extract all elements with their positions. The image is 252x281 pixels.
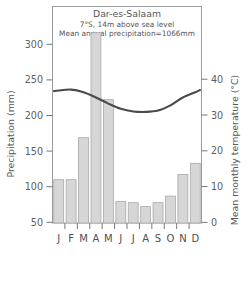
month-label-s-8: S	[155, 233, 161, 244]
precipitation-bar	[66, 180, 76, 223]
precipitation-bar	[54, 180, 64, 223]
chart-subtitle-precipitation: Mean annual precipitation=1066mm	[59, 29, 195, 38]
right-axis-title: Mean monthly temperature (°C)	[229, 75, 240, 226]
precipitation-bar	[190, 163, 200, 223]
month-label-a-3: A	[93, 233, 100, 244]
right-tick-0: 0	[211, 217, 217, 228]
right-tick-10: 10	[211, 181, 223, 192]
month-label-o-9: O	[167, 233, 175, 244]
right-tick-30: 30	[211, 110, 223, 121]
month-label-m-2: M	[79, 233, 88, 244]
right-tick-20: 20	[211, 145, 223, 156]
month-label-a-7: A	[142, 233, 149, 244]
month-label-j-0: J	[56, 233, 60, 244]
precipitation-bar	[141, 207, 151, 223]
precipitation-bar	[103, 100, 113, 223]
left-tick-300: 300	[25, 39, 43, 50]
precipitation-bar	[153, 203, 163, 223]
chart-title: Dar-es-Salaam	[93, 8, 161, 19]
month-label-d-11: D	[191, 233, 199, 244]
left-tick-100: 100	[25, 181, 43, 192]
right-tick-40: 40	[211, 74, 223, 85]
left-tick-50: 50	[31, 217, 43, 228]
month-label-m-4: M	[104, 233, 113, 244]
climate-chart: Dar-es-Salaam 7°S, 14m above sea level M…	[0, 0, 252, 281]
month-label-j-6: J	[131, 233, 135, 244]
precipitation-bar	[178, 174, 188, 223]
precipitation-bar	[116, 201, 126, 223]
month-label-f-1: F	[68, 233, 74, 244]
left-tick-150: 150	[25, 146, 43, 157]
month-label-j-5: J	[118, 233, 122, 244]
precipitation-bar	[128, 203, 138, 223]
left-tick-200: 200	[25, 110, 43, 121]
precipitation-bar	[79, 138, 89, 223]
chart-subtitle-location: 7°S, 14m above sea level	[80, 20, 175, 29]
left-axis-title: Precipitation (mm)	[5, 90, 16, 177]
left-tick-250: 250	[25, 74, 43, 85]
precipitation-bar	[165, 196, 175, 223]
precipitation-bar	[91, 33, 101, 223]
month-label-n-10: N	[179, 233, 186, 244]
